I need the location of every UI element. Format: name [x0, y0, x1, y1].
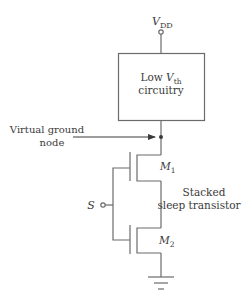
vdd-label: VDD — [152, 15, 173, 30]
annotation-line2: sleep transistor — [157, 199, 241, 211]
sleep-input-terminal-icon — [101, 203, 105, 207]
vdd-terminal-icon — [159, 30, 163, 34]
annotation-line1: Stacked — [183, 186, 226, 198]
m1-label: M1 — [159, 160, 176, 175]
ground-icon — [148, 253, 174, 289]
virtual-ground-label-line2: node — [40, 137, 65, 148]
virtual-ground-label-line1: Virtual ground — [9, 124, 85, 135]
sleep-input-label: S — [87, 199, 95, 212]
m2-label: M2 — [158, 234, 175, 249]
gate-wire — [113, 168, 130, 240]
virtual-ground-node-dot — [159, 135, 163, 139]
block-label-line2: circuitry — [138, 84, 183, 96]
transistor-m1 — [130, 152, 161, 181]
sleep-transistor-schematic: VDD Low Vth circuitry Virtual ground nod… — [0, 0, 247, 305]
transistor-m2 — [130, 225, 161, 254]
